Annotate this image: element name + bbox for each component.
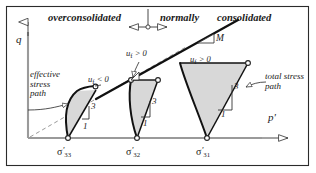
sigma-32-subscript: 32 <box>133 151 140 158</box>
m-angle-marker <box>198 34 214 43</box>
node-sigma-32-total-end <box>156 78 161 83</box>
header-normally: normally <box>160 13 199 24</box>
uf-positive-right-label: uf > 0 <box>190 55 211 66</box>
specimen-33-group <box>66 84 98 140</box>
effective-label-line-3: path <box>30 89 60 99</box>
slope-run-32: 1 <box>143 119 148 128</box>
sigma-31-subscript: 31 <box>203 151 210 158</box>
total-label-line-2: path <box>265 82 304 92</box>
node-sigma-32-start <box>135 136 140 141</box>
total-stress-path-label: total stress path <box>265 72 304 91</box>
specimen-31-group <box>180 61 250 141</box>
sigma-33-subscript: 33 <box>64 151 71 158</box>
uf-positive-mid-relation: > 0 <box>133 48 147 58</box>
slope-run-33: 1 <box>83 122 88 131</box>
uf-negative-label: uf < 0 <box>88 75 109 86</box>
y-axis-label: q <box>16 34 22 45</box>
x-axis-label: p' <box>268 112 276 123</box>
effective-stress-path-leader <box>28 104 68 110</box>
header-overconsolidated: overconsolidated <box>48 13 121 24</box>
specimen-32-group <box>129 72 161 140</box>
node-sigma-33-start <box>66 136 71 141</box>
slope-rise-32: 3 <box>152 97 157 106</box>
uf-positive-right-relation: > 0 <box>197 54 211 64</box>
header-consolidated: consolidated <box>217 13 271 24</box>
uf-positive-mid-label: uf > 0 <box>126 49 147 60</box>
total-stress-path-leader <box>246 82 266 87</box>
stress-path-diagram: overconsolidated normally consolidated q… <box>0 0 316 173</box>
uf-negative-relation: < 0 <box>95 74 109 84</box>
sigma-31-label: σ′31 <box>196 146 210 159</box>
section-span-arrow <box>129 25 167 29</box>
slope-rise-31: 3 <box>234 82 239 91</box>
m-slope-label: M <box>216 34 224 44</box>
effective-stress-path-label: effective stress path <box>30 70 60 99</box>
node-sigma-31-total-end <box>246 61 251 66</box>
slope-run-31: 1 <box>221 110 226 119</box>
slope-rise-33: 3 <box>91 102 96 111</box>
sigma-33-label: σ′33 <box>57 146 71 159</box>
node-sigma-31-start <box>205 136 210 141</box>
specimen-32-angle-marker <box>131 72 139 80</box>
sigma-32-label: σ′32 <box>126 146 140 159</box>
